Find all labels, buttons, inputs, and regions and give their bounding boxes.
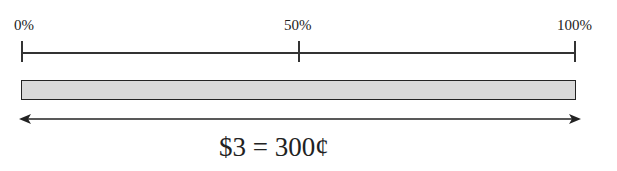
tick-label-0: 0% — [14, 16, 34, 34]
tick-label-100: 100% — [557, 16, 592, 34]
tick-label-50: 50% — [284, 16, 312, 34]
double-arrow-icon — [19, 111, 581, 127]
whole-bar — [21, 80, 576, 100]
tick-mark-0 — [21, 41, 23, 62]
tick-mark-100 — [574, 41, 576, 62]
value-caption: $3 = 300¢ — [219, 131, 329, 163]
tick-mark-50 — [298, 41, 300, 62]
